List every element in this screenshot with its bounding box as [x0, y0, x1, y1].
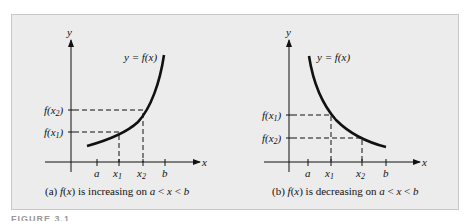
plot-a: y x y = f(x) a x1 x2 b f(x2) f(x1) (a) f…	[44, 26, 207, 198]
y-axis-label-b: y	[285, 26, 291, 38]
svg-text:x1: x1	[112, 167, 122, 181]
figure-canvas: y x y = f(x) a x1 x2 b f(x2) f(x1) (a) f…	[0, 0, 468, 221]
svg-text:b: b	[162, 167, 168, 179]
x-axis-label-b: x	[421, 156, 427, 168]
caption-b: (b) f(x) is decreasing on a < x < b	[272, 185, 419, 198]
caption-a: (a) f(x) is increasing on a < x < b	[45, 185, 190, 198]
curve-decreasing	[309, 56, 386, 147]
x-axis-label-a: x	[201, 156, 207, 168]
curve-label-a: y = f(x)	[123, 51, 157, 64]
svg-text:x1: x1	[324, 167, 334, 181]
svg-text:a: a	[94, 167, 100, 179]
svg-text:f(x2): f(x2)	[44, 104, 64, 118]
svg-text:b: b	[383, 167, 389, 179]
plot-b: y x y = f(x) a x1 x2 b f(x1) f(x2) (b) f…	[262, 26, 427, 198]
y-axis-label-a: y	[66, 26, 72, 38]
curve-label-b: y = f(x)	[316, 51, 350, 64]
figure-label: FIGURE 3.1	[11, 214, 70, 221]
svg-text:x2: x2	[355, 167, 365, 181]
svg-text:f(x2): f(x2)	[262, 132, 282, 146]
svg-text:x2: x2	[136, 167, 146, 181]
svg-text:f(x1): f(x1)	[262, 109, 282, 123]
svg-text:a: a	[305, 167, 311, 179]
svg-text:f(x1): f(x1)	[44, 126, 64, 140]
